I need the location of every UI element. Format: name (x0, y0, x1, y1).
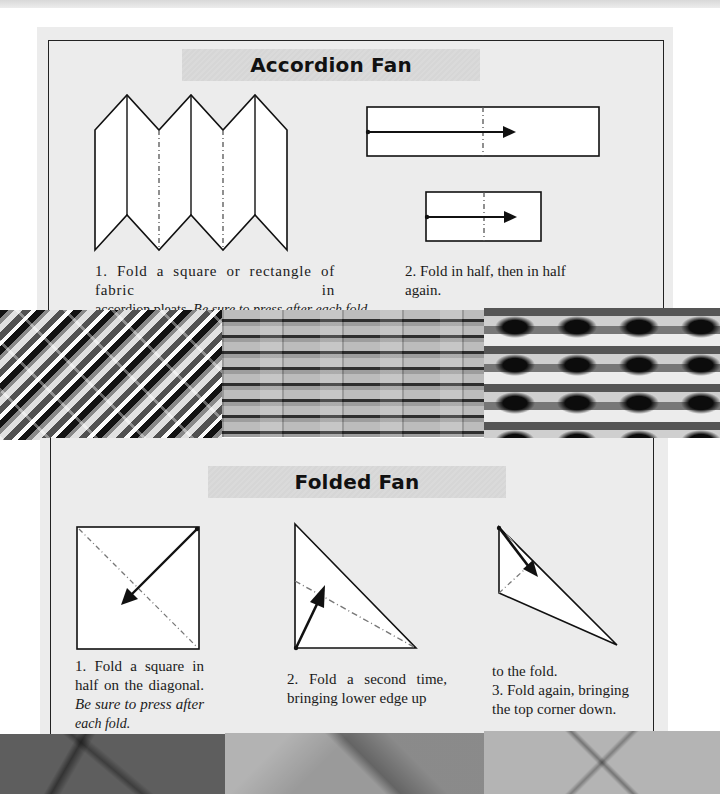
page-top-edge (0, 0, 720, 8)
triangle-third-fold-diagram (496, 525, 621, 647)
caption-line: the top corner down. (492, 700, 642, 719)
accordion-step-2-caption: 2. Fold in half, then in half again. (405, 262, 605, 300)
triangle-second-fold-diagram (293, 522, 419, 652)
diagonal-stripe-fabric-swatch (0, 310, 222, 440)
fold-in-half-again-diagram (425, 191, 543, 243)
caption-line: each fold. (75, 714, 204, 733)
light-diamond-crease-fabric-swatch (484, 731, 720, 794)
folded-fan-title-band: Folded Fan (208, 466, 506, 498)
caption-line: half on the diagonal. (75, 676, 204, 695)
square-diagonal-fold-diagram (76, 526, 202, 652)
caption-line: 3. Fold again, bringing (492, 681, 642, 700)
press-note: Be sure to press after (75, 696, 204, 712)
caption-line: Be sure to press after (75, 695, 204, 714)
caption-line: 1. Fold a square in (75, 657, 204, 676)
folded-step-1-caption: 1. Fold a square in half on the diagonal… (75, 657, 204, 733)
folded-step-3-caption: to the fold. 3. Fold again, bringing the… (492, 662, 642, 719)
spotted-band-fabric-swatch (484, 308, 720, 438)
caption-line: again. (405, 281, 605, 300)
folded-step-2-caption: 2. Fold a second time, bringing lower ed… (287, 670, 447, 708)
section-title: Folded Fan (295, 470, 420, 494)
accordion-pleats-diagram (90, 90, 290, 260)
dark-crease-fabric-swatch (0, 734, 225, 794)
press-note: each fold. (75, 716, 130, 731)
section-title: Accordion Fan (250, 53, 412, 77)
caption-line: 2. Fold a second time, (287, 670, 447, 689)
caption-line: to the fold. (492, 662, 642, 681)
mid-gray-crease-fabric-swatch (225, 733, 484, 794)
caption-line: bringing lower edge up (287, 689, 447, 708)
horizontal-stripe-fabric-swatch (222, 310, 484, 437)
caption-line: 2. Fold in half, then in half (405, 262, 605, 281)
fold-in-half-diagram (366, 106, 601, 158)
caption-line: 1. Fold a square or rectangle of fabric … (95, 262, 335, 300)
accordion-fan-title-band: Accordion Fan (182, 49, 480, 81)
